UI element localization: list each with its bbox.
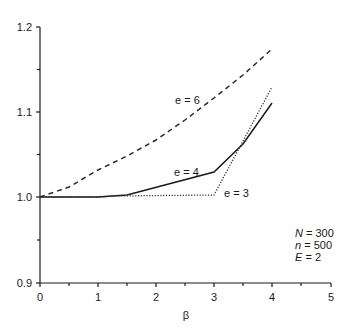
y-axis [36, 27, 40, 283]
x-tick-label: 4 [269, 291, 275, 303]
param-E: E = 2 [295, 251, 321, 263]
curve-label-e3: e = 3 [224, 187, 249, 199]
curve-label-e4: e = 4 [174, 166, 199, 178]
x-tick-label: 0 [37, 291, 43, 303]
param-N: N = 300 [295, 227, 334, 239]
y-tick-label: 1.0 [17, 191, 32, 203]
line-chart: 1.2 1.1 1.0 0.9 0 1 2 3 4 5 β e = 6 e = … [0, 0, 351, 334]
series-e6-dashed [40, 49, 272, 197]
series-e3-dotted [40, 87, 272, 197]
y-tick-label: 1.2 [17, 21, 32, 33]
x-tick-label: 3 [211, 291, 217, 303]
x-axis [40, 283, 331, 287]
x-tick-label: 5 [328, 291, 334, 303]
curve-label-e6: e = 6 [175, 94, 200, 106]
parameter-legend: N = 300 n = 500 E = 2 [295, 227, 334, 263]
x-tick-label: 2 [153, 291, 159, 303]
x-tick-label: 1 [95, 291, 101, 303]
param-n: n = 500 [295, 239, 332, 251]
x-axis-label: β [183, 309, 189, 321]
y-tick-label: 0.9 [17, 277, 32, 289]
y-tick-label: 1.1 [17, 106, 32, 118]
